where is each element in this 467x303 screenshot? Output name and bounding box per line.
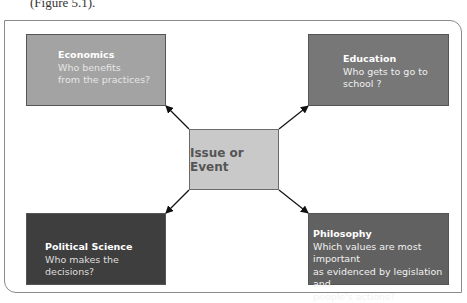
political-science-box: Political Science Who makes the decision… [26,213,166,285]
education-line-2: school ? [343,78,448,91]
education-title: Education [343,53,448,66]
arrow-to-political-science [166,190,189,213]
philosophy-line-3: people's actions? [313,291,448,303]
education-line-1: Who gets to go to [343,66,448,79]
economics-line-1: Who benefits [58,62,165,75]
economics-line-2: from the practices? [58,74,165,87]
arrow-to-philosophy [279,190,308,213]
philosophy-box: Philosophy Which values are most importa… [308,213,449,285]
philosophy-title: Philosophy [313,228,448,241]
economics-title: Economics [58,49,165,62]
philosophy-line-2: as evidenced by legislation and [313,266,448,291]
arrow-to-education [279,106,308,129]
economics-box: Economics Who benefits from the practice… [26,34,166,106]
political-science-title: Political Science [45,241,165,254]
education-box: Education Who gets to go to school ? [308,34,449,106]
philosophy-line-1: Which values are most important [313,241,448,266]
issue-or-event-box: Issue or Event [189,129,279,190]
arrow-to-economics [166,106,189,129]
political-science-line-1: Who makes the decisions? [45,254,165,279]
